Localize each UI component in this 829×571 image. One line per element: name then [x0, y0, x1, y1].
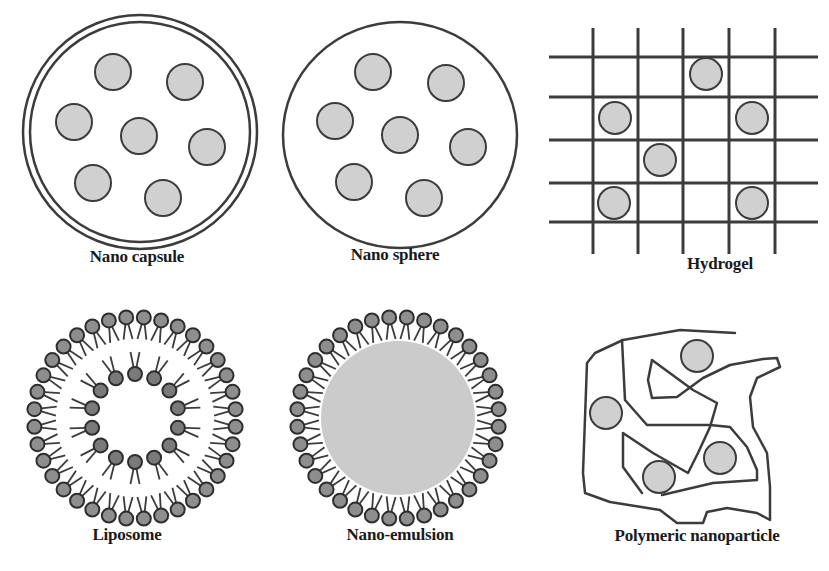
- lipid-head: [119, 310, 133, 324]
- lipid-tail: [307, 395, 321, 402]
- lipid-head: [299, 454, 313, 468]
- lipid-tail: [44, 434, 58, 441]
- lipid-tail: [357, 488, 361, 503]
- lipid-head: [400, 512, 414, 526]
- lipid-tail: [137, 497, 141, 512]
- lipid-head: [434, 503, 448, 517]
- lipid-tail: [160, 328, 161, 343]
- lipid-head: [417, 313, 431, 327]
- drug-particle: [56, 104, 92, 140]
- lipid-tail: [213, 428, 228, 430]
- lipid-tail: [307, 434, 321, 441]
- lipid-head: [449, 494, 463, 508]
- lipid-head: [293, 385, 307, 399]
- lipid-tail: [360, 492, 369, 504]
- lipid-tail: [94, 488, 98, 503]
- lipid-head: [299, 368, 313, 382]
- lipid-head: [474, 469, 488, 483]
- lipid-head: [85, 503, 99, 517]
- lipid-tail: [137, 324, 141, 339]
- lipid-head: [102, 313, 116, 327]
- lipid-head: [320, 482, 334, 496]
- lipid-head: [290, 402, 304, 416]
- lipid-head: [492, 420, 506, 434]
- lipid-tail: [205, 377, 220, 381]
- drug-particle: [681, 340, 713, 372]
- lipid-head: [365, 313, 379, 327]
- lipid-head: [483, 454, 497, 468]
- lipid-head: [489, 437, 503, 451]
- nano-emulsion-figure: [290, 310, 505, 525]
- lipid-tail: [41, 411, 56, 415]
- lipid-tail: [41, 407, 56, 409]
- lipid-tail: [97, 492, 106, 504]
- hydrogel-figure: [549, 28, 818, 254]
- lipid-tail: [164, 332, 173, 344]
- drug-particle: [428, 65, 464, 101]
- lipid-tail: [375, 495, 382, 509]
- lipid-head: [85, 319, 99, 333]
- lipid-tail: [131, 469, 134, 484]
- lipid-head: [162, 438, 176, 452]
- lipid-head: [36, 368, 50, 382]
- lipid-head: [171, 319, 185, 333]
- lipid-tail: [151, 495, 158, 509]
- lipid-tail: [476, 428, 491, 430]
- lipid-head: [290, 420, 304, 434]
- lipid-tail: [210, 392, 225, 393]
- lipid-head: [102, 509, 116, 523]
- lipid-head: [162, 384, 176, 398]
- lipid-tail: [205, 455, 220, 459]
- lipid-head: [449, 328, 463, 342]
- lipid-head: [382, 512, 396, 526]
- lipid-tail: [313, 455, 328, 459]
- lipid-head: [365, 509, 379, 523]
- lipid-tail: [427, 492, 436, 504]
- lipid-tail: [158, 360, 167, 372]
- nano-sphere-figure: [283, 22, 517, 248]
- lipid-tail: [112, 495, 119, 509]
- label-polymeric-nanoparticle: Polymeric nanoparticle: [614, 526, 779, 546]
- lipid-head: [199, 482, 213, 496]
- lipid-head: [85, 401, 99, 415]
- lipid-head: [30, 385, 44, 399]
- lipid-tail: [472, 447, 484, 456]
- lipid-tail: [372, 328, 373, 343]
- lipid-tail: [473, 392, 488, 393]
- lipid-head: [171, 503, 185, 517]
- lipid-tail: [408, 324, 410, 339]
- drug-particle: [590, 397, 622, 429]
- lipid-head: [171, 401, 185, 415]
- drug-particle: [167, 64, 203, 100]
- lipid-head: [348, 319, 362, 333]
- drug-particle: [145, 180, 181, 216]
- lipid-tail: [313, 377, 328, 381]
- lipid-tail: [49, 380, 61, 389]
- lipid-head: [154, 509, 168, 523]
- lipid-tail: [102, 360, 111, 372]
- lipid-head: [308, 469, 322, 483]
- lipid-tail: [41, 420, 56, 424]
- lipid-head: [220, 454, 234, 468]
- lipid-tail: [109, 493, 110, 508]
- lipid-head: [137, 310, 151, 324]
- liposome-figure: [27, 310, 242, 525]
- lipid-tail: [304, 411, 319, 415]
- lipid-tail: [44, 395, 58, 402]
- lipid-head: [417, 509, 431, 523]
- drug-particle: [644, 144, 676, 176]
- lipid-tail: [72, 399, 86, 405]
- lipid-head: [45, 353, 59, 367]
- lipid-tail: [128, 324, 132, 339]
- lipid-head: [400, 310, 414, 324]
- lipid-tail: [137, 352, 140, 367]
- lipid-head: [171, 421, 185, 435]
- lipid-head: [70, 328, 84, 342]
- lipid-head: [137, 512, 151, 526]
- drug-particle: [95, 54, 131, 90]
- lipid-tail: [213, 407, 228, 409]
- lipid-tail: [212, 395, 226, 402]
- drug-particle: [121, 118, 157, 154]
- lipid-tail: [184, 399, 198, 405]
- lipid-head: [462, 340, 476, 354]
